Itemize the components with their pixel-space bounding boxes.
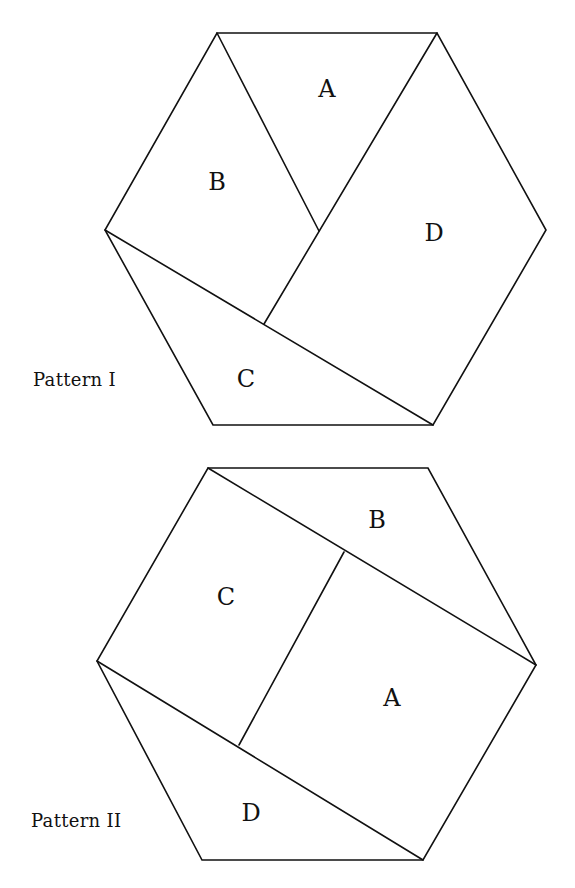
hexagon-outline <box>97 468 536 860</box>
cut-line <box>97 661 423 860</box>
piece-label-a: A <box>382 684 401 712</box>
pattern-1-hexagon: ABCD <box>105 33 546 425</box>
pattern-2-hexagon: BCAD <box>97 468 536 860</box>
piece-label-a: A <box>317 75 336 103</box>
pattern-2-caption: Pattern II <box>31 810 121 831</box>
cut-line <box>208 468 536 665</box>
cut-line <box>105 230 433 425</box>
cut-line <box>217 33 319 231</box>
pattern-1-caption: Pattern I <box>33 369 116 390</box>
hexagon-diagrams: ABCDBCAD <box>0 0 575 888</box>
cut-line <box>264 33 437 324</box>
piece-label-d: D <box>241 799 260 827</box>
hexagon-dissection-figure: ABCDBCAD Pattern I Pattern II <box>0 0 575 888</box>
piece-label-c: C <box>217 583 235 611</box>
piece-label-b: B <box>208 168 226 196</box>
piece-label-d: D <box>424 219 443 247</box>
cut-line <box>239 552 344 745</box>
piece-label-c: C <box>237 365 255 393</box>
piece-label-b: B <box>368 506 386 534</box>
